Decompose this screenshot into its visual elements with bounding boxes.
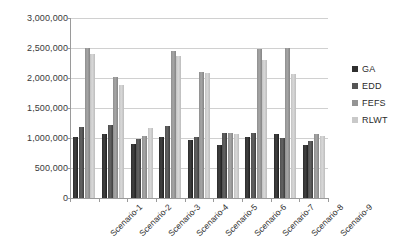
chart-legend: GAEDDFEFSRLWT <box>352 60 406 128</box>
legend-swatch-icon <box>352 83 358 89</box>
bar-group <box>242 18 271 198</box>
y-axis-tick-label: 2,000,000 <box>2 73 68 83</box>
legend-swatch-icon <box>352 117 358 123</box>
y-axis-tick-label: 1,500,000 <box>2 103 68 113</box>
legend-label: EDD <box>362 81 382 91</box>
bar-ga <box>245 137 250 198</box>
bar-ga <box>188 140 193 198</box>
bar-edd <box>136 139 141 198</box>
bar-fefs <box>142 136 147 198</box>
bar-ga <box>102 134 107 198</box>
bar-rlwt <box>90 54 95 198</box>
bar-rlwt <box>148 128 153 198</box>
bar-edd <box>194 137 199 198</box>
bar-ga <box>159 137 164 198</box>
x-axis-tick-mark <box>328 198 329 202</box>
bar-ga <box>73 137 78 198</box>
legend-label: FEFS <box>362 98 386 108</box>
bar-group <box>185 18 214 198</box>
y-axis-tick-label: 2,500,000 <box>2 43 68 53</box>
bar-ga <box>131 144 136 198</box>
bar-rlwt <box>291 74 296 198</box>
bar-edd <box>79 127 84 198</box>
legend-item-rlwt[interactable]: RLWT <box>352 111 406 128</box>
y-axis: 3,000,0002,500,0002,000,0001,500,0001,00… <box>0 0 68 250</box>
bar-group <box>299 18 328 198</box>
x-axis-labels: Scenario-1Scenario-2Scenario-3Scenario-4… <box>70 198 328 250</box>
legend-label: GA <box>362 64 375 74</box>
bar-ga <box>274 134 279 198</box>
legend-swatch-icon <box>352 66 358 72</box>
legend-swatch-icon <box>352 100 358 106</box>
bar-fefs <box>171 51 176 198</box>
bar-rlwt <box>262 60 267 198</box>
bar-rlwt <box>176 56 181 198</box>
bar-rlwt <box>320 136 325 198</box>
bar-fefs <box>314 134 319 198</box>
bar-edd <box>165 126 170 198</box>
bar-rlwt <box>234 134 239 198</box>
bar-rlwt <box>205 73 210 198</box>
bar-edd <box>251 133 256 198</box>
legend-item-ga[interactable]: GA <box>352 60 406 77</box>
legend-label: RLWT <box>362 115 388 125</box>
bar-edd <box>280 138 285 198</box>
bar-groups <box>70 18 328 198</box>
bar-edd <box>308 141 313 198</box>
bar-fefs <box>228 133 233 198</box>
bar-fefs <box>199 72 204 198</box>
legend-item-edd[interactable]: EDD <box>352 77 406 94</box>
bar-fefs <box>85 48 90 198</box>
y-axis-tick-label: 3,000,000 <box>2 13 68 23</box>
bar-group <box>127 18 156 198</box>
bar-group <box>156 18 185 198</box>
bar-chart: 3,000,0002,500,0002,000,0001,500,0001,00… <box>0 0 406 250</box>
bar-ga <box>217 145 222 198</box>
bar-fefs <box>113 77 118 198</box>
legend-item-fefs[interactable]: FEFS <box>352 94 406 111</box>
y-axis-tick-label: 1,000,000 <box>2 133 68 143</box>
bar-fefs <box>257 49 262 198</box>
bar-group <box>271 18 300 198</box>
bar-rlwt <box>119 85 124 198</box>
bar-edd <box>108 125 113 198</box>
bar-fefs <box>285 48 290 198</box>
bar-ga <box>303 145 308 198</box>
bar-group <box>70 18 99 198</box>
bar-group <box>213 18 242 198</box>
bar-edd <box>222 133 227 198</box>
y-axis-tick-label: 500,000 <box>2 163 68 173</box>
bar-group <box>99 18 128 198</box>
y-axis-tick-label: 0 <box>2 193 68 203</box>
